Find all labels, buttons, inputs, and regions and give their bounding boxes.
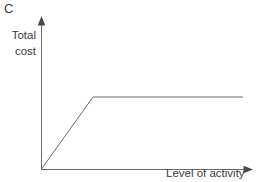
y-axis-arrowhead-icon (38, 16, 46, 26)
plot-area (0, 0, 259, 182)
total-cost-curve (42, 97, 244, 169)
cost-behaviour-graph-panel: C Total cost Level of activity (0, 0, 259, 182)
x-axis-label: Level of activity (166, 167, 245, 181)
